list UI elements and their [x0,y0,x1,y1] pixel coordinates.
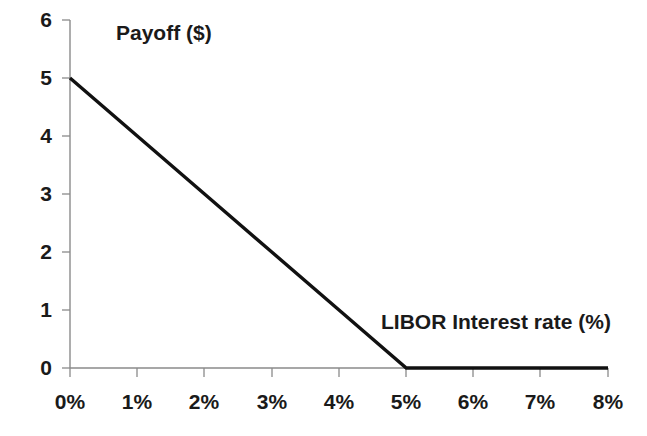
y-tick-label-1: 1 [22,298,52,322]
y-axis-ticks [62,20,70,368]
x-tick-label-5pct: 5% [371,390,441,414]
y-tick-label-6: 6 [22,8,52,32]
chart-plot-area [0,0,647,436]
x-tick-label-4pct: 4% [304,390,374,414]
x-axis-title: LIBOR Interest rate (%) [381,310,611,334]
y-tick-label-2: 2 [22,240,52,264]
x-tick-label-6pct: 6% [438,390,508,414]
y-tick-label-3: 3 [22,182,52,206]
y-tick-label-4: 4 [22,124,52,148]
x-tick-label-0pct: 0% [35,390,105,414]
x-tick-label-1pct: 1% [102,390,172,414]
x-tick-label-2pct: 2% [169,390,239,414]
x-tick-label-8pct: 8% [573,390,643,414]
y-tick-label-0: 0 [22,356,52,380]
payoff-chart: 6 5 4 3 2 1 0 0% 1% 2% 3% 4% 5% 6% 7% 8%… [0,0,647,436]
x-tick-label-3pct: 3% [237,390,307,414]
x-tick-label-7pct: 7% [505,390,575,414]
y-tick-label-5: 5 [22,66,52,90]
y-axis-title: Payoff ($) [116,21,212,45]
